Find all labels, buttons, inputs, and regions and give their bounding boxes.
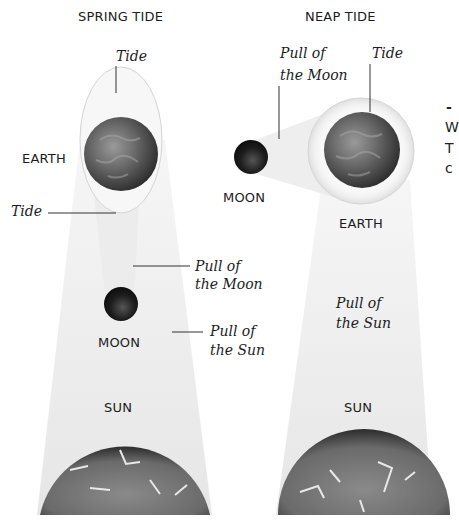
spring-tide-top-label: Tide xyxy=(116,47,147,65)
neap-earth-label: EARTH xyxy=(339,216,383,231)
neap-pull-moon-label-line2: the Moon xyxy=(280,66,348,84)
side-text-fragment-1: - xyxy=(446,97,452,117)
neap-tide-label: Tide xyxy=(372,44,403,62)
neap-pull-sun-label-line1: Pull of xyxy=(336,294,381,312)
spring-earth-label: EARTH xyxy=(22,151,66,166)
spring-moon xyxy=(104,287,138,321)
spring-earth xyxy=(84,117,158,191)
neap-sun-label: SUN xyxy=(344,400,372,415)
side-text-fragment-3: T xyxy=(445,138,454,158)
side-text-fragment-4: c xyxy=(445,158,453,178)
spring-sun-label: SUN xyxy=(104,400,132,415)
neap-moon-label: MOON xyxy=(223,190,265,205)
neap-moon xyxy=(234,140,268,174)
spring-tide-title: SPRING TIDE xyxy=(78,9,163,24)
spring-pull-sun-label-line1: Pull of xyxy=(210,322,255,340)
neap-pull-moon-label-line1: Pull of xyxy=(280,44,325,62)
neap-tide-title: NEAP TIDE xyxy=(305,9,376,24)
side-text-fragment-2: W xyxy=(445,117,459,137)
neap-pull-sun-label-line2: the Sun xyxy=(336,314,391,332)
spring-pull-moon-label-line2: the Moon xyxy=(195,275,263,293)
spring-pull-sun-label-line2: the Sun xyxy=(210,341,265,359)
spring-moon-label: MOON xyxy=(98,335,140,350)
spring-pull-moon-label-line1: Pull of xyxy=(195,257,240,275)
neap-earth xyxy=(324,112,400,188)
spring-tide-bottom-label: Tide xyxy=(11,202,42,220)
